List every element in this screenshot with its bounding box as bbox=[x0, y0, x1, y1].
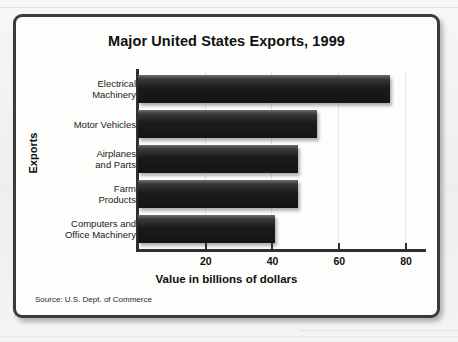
x-axis-title: Value in billions of dollars bbox=[16, 273, 437, 285]
y-axis-tick-label-line: Machinery bbox=[26, 89, 136, 100]
chart-title: Major United States Exports, 1999 bbox=[16, 33, 437, 49]
y-axis-tick-label-line: Airplanes bbox=[26, 148, 136, 159]
source-note: Source: U.S. Dept. of Commerce bbox=[35, 295, 152, 304]
background-rule bbox=[300, 330, 458, 331]
bar bbox=[138, 75, 390, 103]
x-axis-tick-label: 20 bbox=[186, 255, 226, 267]
y-axis-tick-label-line: Farm bbox=[26, 183, 136, 194]
page-background: Major United States Exports, 1999 Export… bbox=[0, 0, 458, 342]
y-axis-tick-label: Computers andOffice Machinery bbox=[26, 218, 136, 240]
y-axis-tick-label: FarmProducts bbox=[26, 183, 136, 205]
y-axis-tick-label: ElectricalMachinery bbox=[26, 78, 136, 100]
bar bbox=[138, 215, 275, 243]
x-axis-line bbox=[136, 249, 426, 252]
bar bbox=[138, 145, 298, 173]
bar bbox=[138, 110, 317, 138]
y-axis-tick-labels: ElectricalMachineryMotor VehiclesAirplan… bbox=[22, 71, 136, 249]
background-rule bbox=[0, 7, 458, 8]
y-axis-tick-label-line: Computers and bbox=[26, 218, 136, 229]
x-axis-tick-mark bbox=[205, 243, 207, 250]
x-axis-tick-label: 80 bbox=[386, 255, 426, 267]
y-axis-tick-label: Motor Vehicles bbox=[26, 119, 136, 130]
x-axis-tick-label: 40 bbox=[252, 255, 292, 267]
y-axis-tick-label-line: Office Machinery bbox=[26, 229, 136, 240]
x-axis-tick-mark bbox=[338, 243, 340, 250]
background-rule bbox=[0, 336, 458, 337]
y-axis-tick-label: Airplanesand Parts bbox=[26, 148, 136, 170]
plot-area bbox=[138, 71, 425, 249]
x-axis-tick-mark bbox=[271, 243, 273, 250]
chart-frame: Major United States Exports, 1999 Export… bbox=[13, 14, 440, 318]
y-axis-tick-label-line: and Parts bbox=[26, 159, 136, 170]
y-axis-tick-label-line: Motor Vehicles bbox=[26, 119, 136, 130]
y-axis-tick-label-line: Products bbox=[26, 194, 136, 205]
y-axis-tick-label-line: Electrical bbox=[26, 78, 136, 89]
x-axis-tick-mark bbox=[405, 243, 407, 250]
bar bbox=[138, 180, 298, 208]
gridline bbox=[405, 71, 406, 249]
x-axis-tick-label: 60 bbox=[319, 255, 359, 267]
